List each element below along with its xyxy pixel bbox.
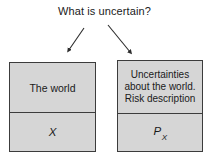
symbol-p: P (153, 125, 161, 137)
arrow-to-uncertainty (108, 25, 131, 53)
panel-world: The world X (9, 62, 96, 152)
symbol-x: X (49, 126, 57, 138)
symbol-p-subscript: X (162, 133, 167, 142)
page-title: What is uncertain? (0, 5, 209, 17)
panel-uncertainty-line-3: Risk description (124, 93, 195, 105)
panel-uncertainty-top-label: Uncertainties about the world. Risk desc… (118, 61, 202, 114)
panel-world-top-label: The world (10, 63, 95, 113)
uncertainty-diagram: What is uncertain? The world X Uncertain… (0, 0, 209, 163)
panel-uncertainty-line-2: about the world. (124, 81, 195, 93)
arrow-to-world (69, 28, 85, 51)
panel-world-symbol: X (10, 113, 95, 151)
panel-uncertainty-symbol: PX (118, 114, 202, 151)
panel-uncertainty-line-1: Uncertainties (124, 69, 195, 81)
panel-uncertainty: Uncertainties about the world. Risk desc… (117, 60, 203, 152)
